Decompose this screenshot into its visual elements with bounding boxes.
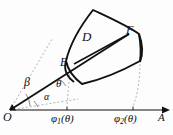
diagram-canvas	[0, 0, 173, 135]
axis-label-phi2: φ2(θ)	[114, 113, 137, 126]
region-label-D: D	[82, 30, 91, 43]
angle-label-beta: β	[24, 76, 30, 88]
axis-label-A: A	[158, 112, 165, 123]
point-label-E: E	[60, 56, 67, 68]
origin-label-O: O	[3, 111, 12, 123]
phi2-argument: (θ)	[124, 112, 137, 124]
axis-label-phi1: φ1(θ)	[51, 113, 74, 126]
angle-label-theta: θ	[56, 78, 61, 89]
polar-region-diagram: D E F O A α β θ φ1(θ) φ2(θ)	[0, 0, 173, 135]
phi1-argument: (θ)	[61, 112, 74, 124]
angle-label-alpha: α	[44, 92, 49, 102]
point-label-F: F	[126, 24, 133, 36]
region-D-outline	[66, 10, 141, 84]
dashed-projection-phi2	[133, 60, 140, 106]
